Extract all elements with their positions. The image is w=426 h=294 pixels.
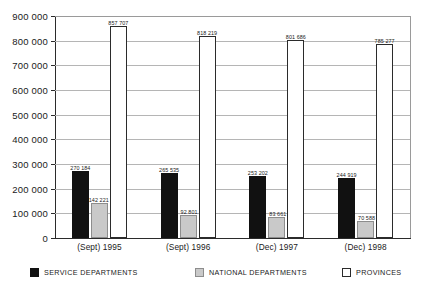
bar-value-label: 83 661	[269, 211, 286, 217]
legend-label: SERVICE DEPARTMENTS	[44, 268, 138, 277]
bar-group: 253 20283 661801 686	[249, 16, 304, 238]
legend-label: PROVINCES	[356, 268, 402, 277]
legend-item[interactable]: PROVINCES	[342, 268, 402, 277]
y-axis-tick	[51, 238, 55, 239]
bar[interactable]: 253 202	[249, 176, 266, 238]
bar[interactable]: 785 277	[376, 44, 393, 238]
bar[interactable]: 818 219	[199, 36, 216, 238]
bar-value-label: 244 919	[337, 172, 357, 178]
y-axis-tick-label: 700 000	[12, 60, 48, 71]
legend-item[interactable]: SERVICE DEPARTMENTS	[30, 268, 138, 277]
bar-group: 270 184142 221857 707	[72, 16, 127, 238]
y-axis-tick-label: 600 000	[12, 85, 48, 96]
legend-item[interactable]: NATIONAL DEPARTMENTS	[195, 268, 307, 277]
bar-value-label: 265 535	[159, 167, 179, 173]
bar[interactable]: 265 535	[161, 173, 178, 238]
legend-label: NATIONAL DEPARTMENTS	[209, 268, 307, 277]
x-axis-category-label: (Sept) 1995	[77, 242, 121, 252]
bar-group: 244 91970 588785 277	[338, 16, 393, 238]
bar[interactable]: 857 707	[110, 26, 127, 238]
bar-value-label: 92 801	[181, 209, 198, 215]
y-axis-tick-label: 100 000	[12, 208, 48, 219]
bar-value-label: 253 202	[248, 170, 268, 176]
bar[interactable]: 70 588	[357, 221, 374, 238]
legend-swatch-icon	[342, 268, 351, 277]
bar-value-label: 142 221	[89, 197, 109, 203]
bar-value-label: 818 219	[197, 30, 217, 36]
bar[interactable]: 801 686	[287, 40, 304, 238]
legend-swatch-icon	[30, 268, 39, 277]
x-axis-category-label: (Sept) 1996	[166, 242, 210, 252]
bar-chart: 0100 000200 000300 000400 000500 000600 …	[0, 0, 426, 294]
legend-swatch-icon	[195, 268, 204, 277]
y-axis-tick-label: 200 000	[12, 183, 48, 194]
bar-value-label: 70 588	[358, 215, 375, 221]
chart-legend: SERVICE DEPARTMENTSNATIONAL DEPARTMENTSP…	[30, 268, 410, 282]
y-axis-tick-label: 900 000	[12, 11, 48, 22]
y-axis-tick-label: 500 000	[12, 109, 48, 120]
y-axis-tick	[51, 16, 55, 17]
bar[interactable]: 142 221	[91, 203, 108, 238]
bar-value-label: 801 686	[286, 34, 306, 40]
y-axis-tick-label: 300 000	[12, 159, 48, 170]
bar-value-label: 270 184	[70, 165, 90, 171]
bar[interactable]: 83 661	[268, 217, 285, 238]
plot-area: 270 184142 221857 707265 53592 801818 21…	[55, 16, 410, 238]
x-axis-line	[55, 238, 411, 239]
y-axis-tick-label: 800 000	[12, 35, 48, 46]
bar[interactable]: 270 184	[72, 171, 89, 238]
bar-group: 265 53592 801818 219	[161, 16, 216, 238]
bar-value-label: 785 277	[375, 38, 395, 44]
y-axis-tick-label: 400 000	[12, 134, 48, 145]
bar[interactable]: 244 919	[338, 178, 355, 238]
y-axis-tick-label: 0	[43, 233, 48, 244]
bar[interactable]: 92 801	[180, 215, 197, 238]
bar-value-label: 857 707	[108, 20, 128, 26]
x-axis-category-label: (Dec) 1997	[256, 242, 298, 252]
x-axis-category-label: (Dec) 1998	[345, 242, 387, 252]
plot-border-right	[410, 16, 411, 239]
